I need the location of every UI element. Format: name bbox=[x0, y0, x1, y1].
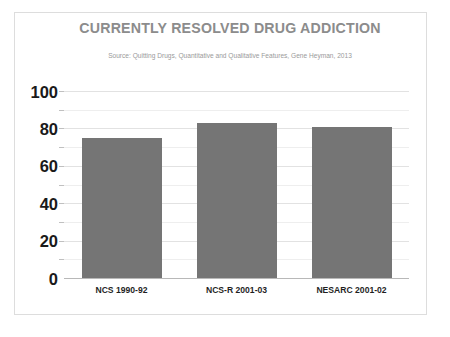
y-tick-mark bbox=[59, 166, 64, 167]
y-tick-mark-minor bbox=[59, 222, 64, 223]
x-axis-baseline bbox=[64, 278, 409, 279]
x-tick-label: NCS-R 2001-03 bbox=[182, 285, 292, 295]
bar bbox=[312, 127, 392, 278]
gridline-minor bbox=[64, 110, 409, 111]
x-tick-label: NESARC 2001-02 bbox=[297, 285, 407, 295]
plot-area bbox=[64, 92, 409, 279]
chart-title: CURRENTLY RESOLVED DRUG ADDICTION bbox=[60, 20, 400, 36]
y-tick-mark-minor bbox=[59, 259, 64, 260]
y-tick-label: 80 bbox=[12, 121, 58, 138]
bar bbox=[197, 123, 277, 278]
bar bbox=[82, 138, 162, 278]
y-tick-mark bbox=[59, 241, 64, 242]
y-tick-mark-minor bbox=[59, 110, 64, 111]
y-tick-label: 60 bbox=[12, 158, 58, 175]
y-tick-mark bbox=[59, 203, 64, 204]
chart-screenshot: CURRENTLY RESOLVED DRUG ADDICTION Source… bbox=[0, 0, 450, 337]
y-tick-label: 100 bbox=[12, 84, 58, 101]
y-tick-mark-minor bbox=[59, 185, 64, 186]
y-tick-label: 0 bbox=[12, 271, 58, 288]
y-tick-mark bbox=[59, 128, 64, 129]
y-tick-mark-minor bbox=[59, 147, 64, 148]
x-tick-label: NCS 1990-92 bbox=[67, 285, 177, 295]
chart-subtitle-source: Source: Quitting Drugs, Quantitative and… bbox=[55, 52, 405, 59]
y-tick-label: 40 bbox=[12, 196, 58, 213]
x-axis-labels: NCS 1990-92NCS-R 2001-03NESARC 2001-02 bbox=[64, 285, 409, 301]
y-tick-label: 20 bbox=[12, 233, 58, 250]
y-axis-labels: 020406080100 bbox=[10, 92, 58, 279]
gridline-major bbox=[64, 91, 409, 92]
y-tick-mark bbox=[59, 91, 64, 92]
